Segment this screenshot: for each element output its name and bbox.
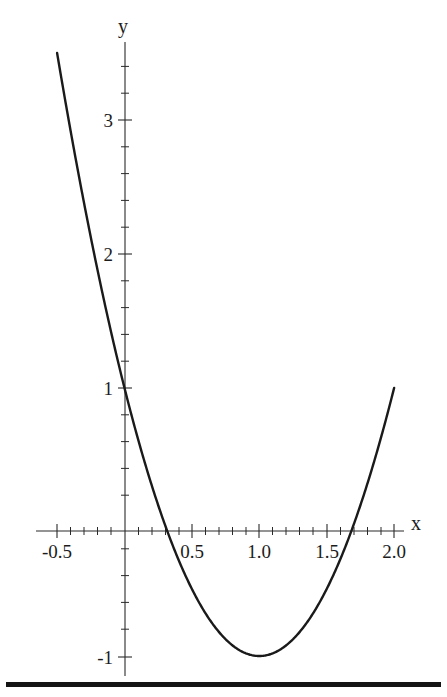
plot-canvas [0,0,447,697]
function-curve [57,53,394,656]
x-tick-label-1-0: 1.0 [247,542,271,561]
x-tick-label-0-5: 0.5 [180,542,204,561]
x-tick-label-1-5: 1.5 [315,542,339,561]
x-tick-label-minus-0-5: -0.5 [42,542,72,561]
horizontal-rule [6,682,441,687]
y-tick-label-3: 3 [104,111,114,130]
function-plot-figure: y x 3 2 1 -1 -0.5 0.5 1.0 1.5 2.0 [0,0,447,697]
y-tick-label-minus-1: -1 [97,648,113,667]
x-axis-label: x [411,513,421,533]
y-tick-label-2: 2 [104,245,114,264]
y-tick-label-1: 1 [104,379,114,398]
x-tick-label-2-0: 2.0 [382,542,406,561]
y-axis-label: y [118,16,128,36]
